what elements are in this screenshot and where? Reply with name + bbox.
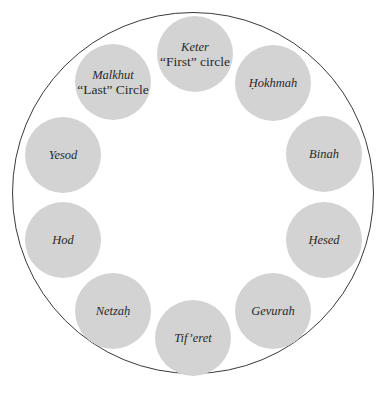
- node-tiferet: Tif’eret: [155, 300, 231, 376]
- node-label: Gevurah: [251, 304, 295, 318]
- node-keter: Keter “First” circle: [157, 16, 233, 92]
- node-sublabel: “First” circle: [160, 54, 230, 69]
- node-hesed: Ḥesed: [286, 202, 362, 278]
- node-label: Netzaḥ: [96, 304, 131, 318]
- node-label: Hod: [52, 233, 74, 247]
- sefirot-circle-diagram: Keter “First” circle Ḥokhmah Binah Ḥesed…: [0, 0, 382, 394]
- node-gevurah: Gevurah: [235, 273, 311, 349]
- node-hokhmah: Ḥokhmah: [235, 45, 311, 121]
- node-label: Keter: [181, 40, 209, 54]
- node-label: Yesod: [49, 148, 78, 162]
- node-netzah: Netzaḥ: [75, 273, 151, 349]
- node-label: Tif’eret: [174, 331, 212, 345]
- node-label: Ḥesed: [308, 233, 339, 247]
- node-binah: Binah: [286, 116, 362, 192]
- node-yesod: Yesod: [25, 117, 101, 193]
- node-label: Binah: [309, 147, 339, 161]
- node-sublabel: “Last” Circle: [77, 82, 149, 97]
- node-label: Ḥokhmah: [249, 76, 298, 90]
- node-hod: Hod: [25, 202, 101, 278]
- node-label: Malkhut: [92, 68, 134, 82]
- node-malkhut: Malkhut “Last” Circle: [75, 44, 151, 120]
